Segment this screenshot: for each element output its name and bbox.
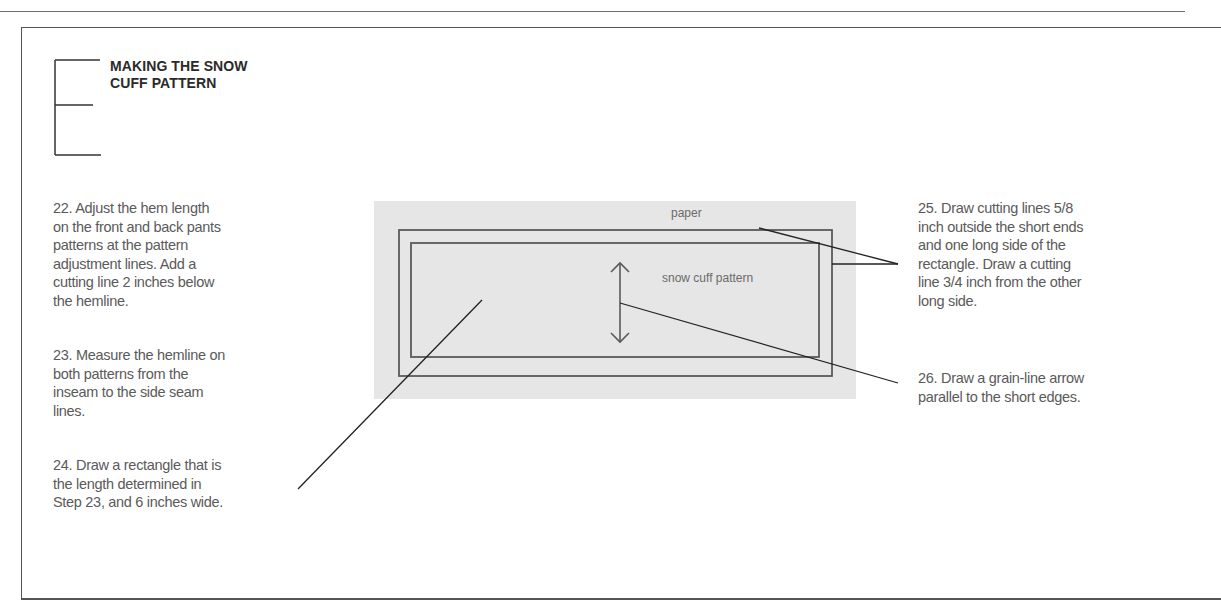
step-line: line 3/4 inch from the other <box>918 273 1083 292</box>
step-line: the hemline. <box>53 292 221 311</box>
step-line: 24. Draw a rectangle that is <box>53 456 223 475</box>
step-line: on the front and back pants <box>53 218 221 237</box>
step-line: 26. Draw a grain-line arrow <box>918 369 1084 388</box>
step-line: inseam to the side seam <box>53 383 225 402</box>
step-line: parallel to the short edges. <box>918 388 1084 407</box>
step-line: and one long side of the <box>918 236 1083 255</box>
step-line: inch outside the short ends <box>918 218 1083 237</box>
cuff-pattern-diagram <box>374 201 856 399</box>
step-line: rectangle. Draw a cutting <box>918 255 1083 274</box>
heading-bracket-icon <box>55 60 101 155</box>
heading-line-1: MAKING THE SNOW <box>110 58 248 75</box>
step-25: 25. Draw cutting lines 5/8 inch outside … <box>918 199 1083 311</box>
step-24: 24. Draw a rectangle that is the length … <box>53 456 223 512</box>
paper-label: paper <box>671 206 702 220</box>
step-line: 23. Measure the hemline on <box>53 346 225 365</box>
step-line: cutting line 2 inches below <box>53 273 221 292</box>
step-26: 26. Draw a grain-line arrow parallel to … <box>918 369 1084 406</box>
pattern-label: snow cuff pattern <box>662 271 753 285</box>
step-line: long side. <box>918 292 1083 311</box>
step-line: adjustment lines. Add a <box>53 255 221 274</box>
section-heading: MAKING THE SNOW CUFF PATTERN <box>110 58 248 92</box>
step-line: 25. Draw cutting lines 5/8 <box>918 199 1083 218</box>
step-line: both patterns from the <box>53 365 225 384</box>
step-line: 22. Adjust the hem length <box>53 199 221 218</box>
step-22: 22. Adjust the hem length on the front a… <box>53 199 221 311</box>
step-line: the length determined in <box>53 475 223 494</box>
step-line: Step 23, and 6 inches wide. <box>53 493 223 512</box>
heading-line-2: CUFF PATTERN <box>110 75 248 92</box>
step-line: lines. <box>53 402 225 421</box>
step-23: 23. Measure the hemline on both patterns… <box>53 346 225 420</box>
step-line: patterns at the pattern <box>53 236 221 255</box>
